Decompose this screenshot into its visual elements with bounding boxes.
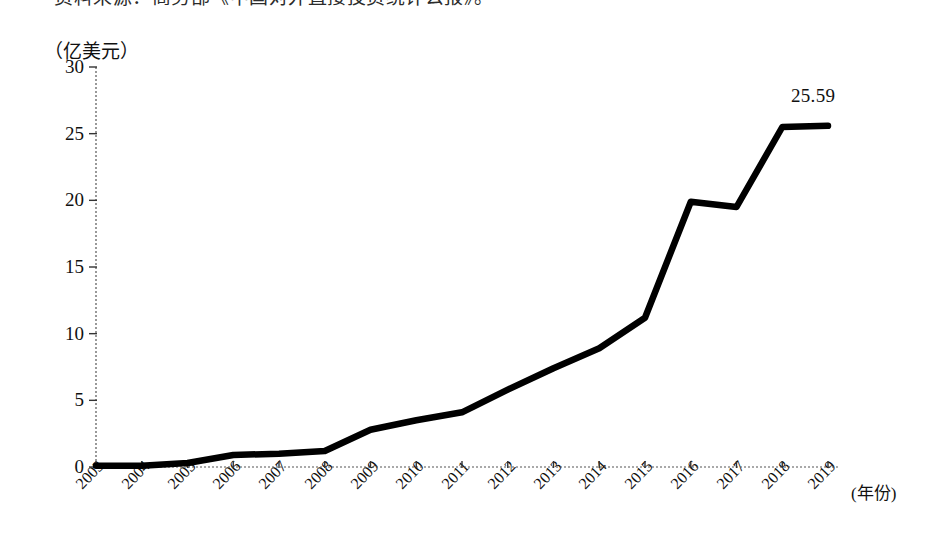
plot-area bbox=[0, 0, 944, 552]
series-line bbox=[96, 126, 828, 466]
line-chart: （亿美元） (年份) 25.59 051015202530 2003200420… bbox=[0, 0, 944, 552]
